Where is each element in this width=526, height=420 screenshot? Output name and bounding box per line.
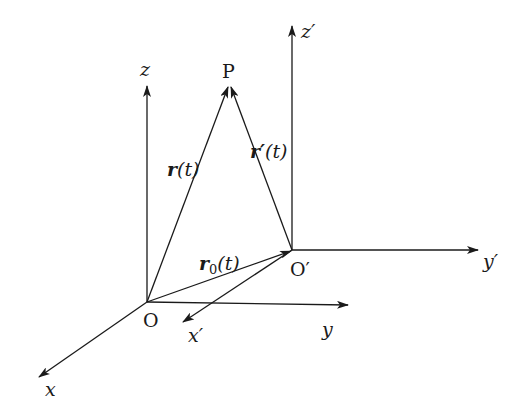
z-axis-label: z [139, 58, 151, 80]
x-axis [39, 302, 147, 377]
vector-r-prime [231, 87, 292, 250]
y-axis-label: y [321, 318, 333, 340]
vector-r0-label: r0(t) [199, 252, 240, 277]
point-O-prime-label: O′ [290, 258, 310, 280]
x-axis-label: x [45, 378, 56, 400]
vector-r-prime-arg: (t) [265, 140, 287, 162]
y-prime-axis-label: y′ [482, 250, 499, 272]
vector-r-prime-symbol: r′ [250, 140, 265, 162]
vector-r-label: r(t) [167, 158, 199, 180]
y-axis [147, 302, 348, 305]
vector-r0-subscript: 0 [209, 262, 217, 277]
vector-r-prime-label: r′(t) [250, 140, 288, 162]
z-prime-axis-label: z′ [300, 20, 316, 42]
point-O-label: O [143, 309, 159, 331]
x-prime-axis-label: x′ [188, 324, 204, 346]
vector-r0-arg: (t) [217, 252, 239, 274]
vector-r-arg: (t) [177, 158, 199, 180]
point-P-label: P [222, 60, 235, 82]
reference-frames-diagram: z y x z′ y′ x′ P O O′ r(t) r′(t) r0(t) [0, 0, 526, 420]
